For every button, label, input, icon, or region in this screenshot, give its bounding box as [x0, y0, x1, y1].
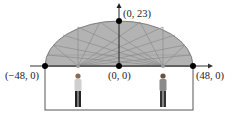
point-top [116, 18, 122, 24]
point-center [116, 63, 122, 69]
left-focus [76, 64, 80, 68]
label-center: (0, 0) [108, 70, 131, 81]
y-axis-arrow-icon [117, 3, 122, 8]
label-left: (−48, 0) [5, 70, 39, 81]
point-right [190, 63, 196, 69]
label-right: (48, 0) [196, 70, 224, 81]
point-left [42, 63, 48, 69]
right-focus [161, 64, 165, 68]
ellipse-diagram [0, 0, 233, 119]
label-top: (0, 23) [123, 8, 151, 19]
person-left-icon [75, 73, 82, 107]
x-axis-arrow-icon [208, 64, 213, 69]
person-right-icon [160, 73, 167, 107]
